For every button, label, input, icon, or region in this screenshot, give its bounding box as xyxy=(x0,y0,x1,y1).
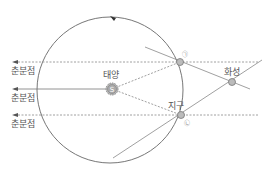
earth-position-a-icon xyxy=(177,59,184,66)
vernal-equinox-label-bottom: 춘분점 xyxy=(11,118,35,129)
svg-text:S: S xyxy=(110,86,115,94)
arrowhead-icon xyxy=(12,60,18,64)
mars-icon xyxy=(229,79,236,86)
earth-position-b-icon xyxy=(178,112,185,119)
vernal-equinox-label-middle: 춘분점 xyxy=(11,92,35,103)
mars-label: 화성 xyxy=(224,67,240,77)
earth-mars-orbit-diagram: S 태양 ㉠ ㉡ 지구 화성 춘분점 춘분점 춘분점 xyxy=(0,0,275,177)
sun-label: 태양 xyxy=(103,70,119,80)
vernal-equinox-label-top: 춘분점 xyxy=(11,65,35,76)
arrowhead-icon xyxy=(12,113,18,117)
marker-b-label: ㉡ xyxy=(184,119,190,127)
arrowhead-icon xyxy=(12,87,18,91)
earth-label: 지구 xyxy=(168,101,184,111)
marker-a-label: ㉠ xyxy=(182,50,188,58)
sun-earth-line-a xyxy=(112,62,180,89)
sun-icon: S xyxy=(106,83,118,95)
